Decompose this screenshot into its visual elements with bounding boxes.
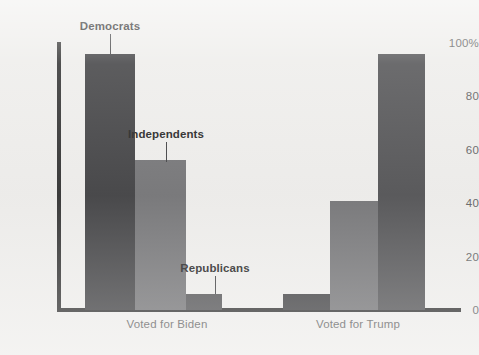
y-tick-label-100: 100% bbox=[433, 37, 479, 49]
y-tick-label-80: 80 bbox=[433, 90, 479, 102]
y-tick-label-40: 40 bbox=[433, 197, 479, 209]
annotation-independents-label: Independents bbox=[128, 128, 204, 140]
x-category-label-biden: Voted for Biden bbox=[127, 318, 208, 330]
annotation-republicans-label: Republicans bbox=[180, 262, 249, 274]
annotation-democrats-label: Democrats bbox=[80, 20, 140, 32]
annotation-democrats-leader-line bbox=[110, 34, 111, 55]
bar-biden-democrats bbox=[85, 54, 135, 310]
annotation-independents-leader-line bbox=[166, 142, 167, 162]
plot-area: 100% 80 60 40 20 0 Democrats Independent… bbox=[0, 0, 479, 355]
bar-chart-figure: 100% 80 60 40 20 0 Democrats Independent… bbox=[0, 0, 479, 355]
bar-trump-republicans bbox=[378, 54, 425, 310]
annotation-republicans-leader-line bbox=[215, 276, 216, 294]
bar-biden-independents bbox=[135, 160, 186, 310]
y-tick-label-0: 0 bbox=[433, 304, 479, 316]
bar-trump-democrats bbox=[283, 294, 330, 310]
x-category-label-trump: Voted for Trump bbox=[316, 318, 400, 330]
y-axis-line bbox=[57, 42, 61, 312]
y-tick-label-20: 20 bbox=[433, 251, 479, 263]
bar-trump-independents bbox=[330, 201, 378, 310]
bar-biden-republicans bbox=[186, 294, 222, 310]
y-tick-label-60: 60 bbox=[433, 144, 479, 156]
